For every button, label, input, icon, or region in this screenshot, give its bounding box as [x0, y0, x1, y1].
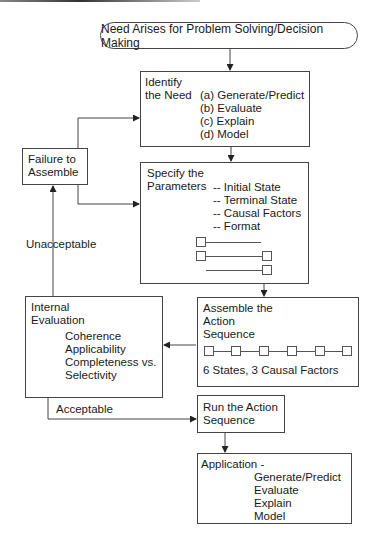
identify-need-box: Identify the Need (a) Generate/Predict (… [140, 71, 310, 147]
sequence-link [269, 351, 287, 352]
param-initial-state: -- Initial State [213, 181, 281, 194]
identify-option-a: (a) Generate/Predict [200, 89, 304, 102]
sequence-state-box [259, 346, 269, 356]
unacceptable-label: Unacceptable [26, 238, 96, 250]
criterion-selectivity: Selectivity [65, 369, 117, 382]
run-label-1: Run the Action [203, 401, 278, 414]
application-heading: Application - [201, 458, 264, 471]
start-node-label: Need Arises for Problem Solving/Decision… [101, 22, 357, 50]
assemble-sequence-box: Assemble the Action Sequence 6 States, 3… [197, 297, 359, 387]
criterion-applicability: Applicability [65, 343, 126, 356]
schematic-line [206, 256, 262, 257]
internal-evaluation-box: Internal Evaluation Coherence Applicabil… [25, 296, 163, 398]
criterion-coherence: Coherence [65, 330, 121, 343]
identify-option-b: (b) Evaluate [200, 102, 262, 115]
acceptable-label: Acceptable [56, 403, 113, 415]
sequence-link [297, 351, 315, 352]
identify-option-d: (d) Model [200, 128, 249, 141]
application-model: Model [254, 510, 285, 523]
sequence-link [241, 351, 259, 352]
failure-label-2: Assemble [28, 166, 79, 179]
evaluation-heading-1: Internal [31, 301, 69, 314]
param-terminal-state: -- Terminal State [213, 194, 297, 207]
schematic-state-box [196, 237, 206, 247]
specify-heading-2: Parameters [147, 180, 206, 193]
criterion-completeness: Completeness vs. [65, 356, 156, 369]
sequence-state-box [204, 346, 214, 356]
application-explain: Explain [254, 497, 292, 510]
sequence-link [325, 351, 342, 352]
failure-to-assemble-box: Failure to Assemble [22, 148, 88, 185]
start-node: Need Arises for Problem Solving/Decision… [100, 22, 358, 49]
param-causal-factors: -- Causal Factors [213, 207, 301, 220]
run-label-2: Sequence [203, 414, 255, 427]
schematic-line [206, 270, 262, 271]
sequence-state-box [342, 346, 352, 356]
run-sequence-box: Run the Action Sequence [197, 395, 285, 433]
sequence-state-box [287, 346, 297, 356]
assemble-heading-2: Action [203, 315, 235, 328]
identify-heading-1: Identify [145, 76, 182, 89]
assemble-heading-1: Assemble the [203, 302, 273, 315]
schematic-state-box [262, 265, 272, 275]
assemble-heading-3: Sequence [203, 328, 255, 341]
evaluation-heading-2: Evaluation [31, 314, 85, 327]
schematic-state-box [196, 251, 206, 261]
specify-heading-1: Specify the [147, 167, 204, 180]
assemble-caption: 6 States, 3 Causal Factors [203, 364, 339, 377]
identify-heading-2: the Need [145, 89, 192, 102]
sequence-state-box [315, 346, 325, 356]
schematic-line [206, 242, 261, 243]
application-generate: Generate/Predict [254, 471, 341, 484]
param-format: -- Format [213, 220, 260, 233]
failure-label-1: Failure to [28, 153, 76, 166]
specify-parameters-box: Specify the Parameters -- Initial State … [140, 162, 309, 284]
application-evaluate: Evaluate [254, 484, 299, 497]
identify-option-c: (c) Explain [200, 115, 254, 128]
schematic-state-box [262, 251, 272, 261]
sequence-link [214, 351, 231, 352]
sequence-state-box [231, 346, 241, 356]
application-box: Application - Generate/Predict Evaluate … [197, 453, 352, 524]
